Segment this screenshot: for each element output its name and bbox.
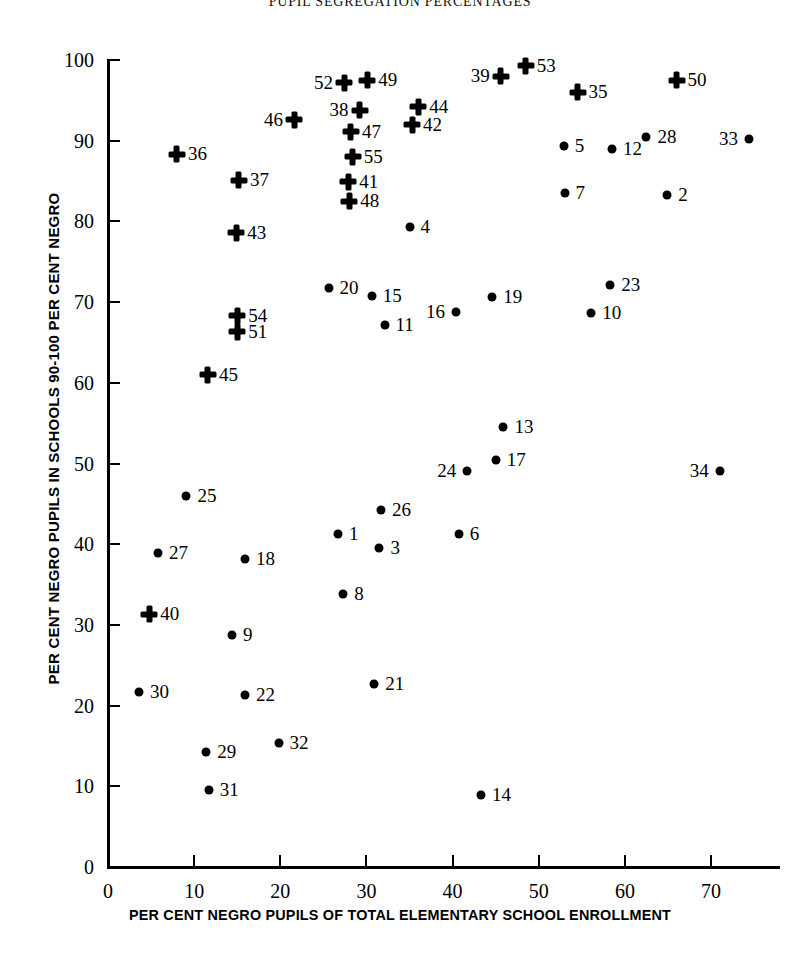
y-tick-label: 50 (34, 454, 94, 474)
data-point-label: 19 (503, 287, 522, 306)
y-tick-mark (107, 140, 120, 142)
y-tick-mark (107, 705, 120, 707)
data-point-label: 26 (392, 500, 411, 519)
data-point-label: 12 (623, 139, 642, 158)
circle-marker-icon (744, 135, 753, 144)
chart-title: PUPIL SEGREGATION PERCENTAGES (0, 0, 800, 7)
data-point-label: 32 (290, 733, 309, 752)
x-tick-label: 40 (423, 881, 483, 901)
data-point-label: 2 (678, 185, 688, 204)
data-point-label: 34 (690, 461, 709, 480)
circle-marker-icon (608, 144, 617, 153)
circle-marker-icon (377, 506, 386, 515)
circle-marker-icon (334, 529, 343, 538)
data-point-label: 44 (429, 97, 448, 116)
x-tick-mark (710, 855, 712, 868)
y-tick-mark (107, 543, 120, 545)
cross-marker-icon (168, 146, 185, 163)
cross-marker-icon (230, 172, 247, 189)
y-tick-mark (107, 785, 120, 787)
x-tick-mark (452, 855, 454, 868)
y-axis-line (107, 60, 110, 869)
data-point-label: 24 (437, 461, 456, 480)
x-tick-label: 20 (250, 881, 310, 901)
data-point-label: 25 (197, 486, 216, 505)
y-tick-label: 100 (34, 50, 94, 70)
circle-marker-icon (339, 590, 348, 599)
data-point-label: 52 (314, 73, 333, 92)
data-point-label: 27 (169, 543, 188, 562)
x-tick-mark (538, 855, 540, 868)
data-point-label: 42 (423, 115, 442, 134)
cross-marker-icon (199, 366, 216, 383)
circle-marker-icon (274, 738, 283, 747)
cross-marker-icon (517, 57, 534, 74)
circle-marker-icon (182, 491, 191, 500)
y-tick-label: 70 (34, 292, 94, 312)
cross-marker-icon (492, 68, 509, 85)
data-point-label: 33 (719, 129, 738, 148)
plot-area: 0102030405060708090100 010203040506070 1… (108, 60, 780, 868)
circle-marker-icon (477, 791, 486, 800)
y-axis-title: PER CENT NEGRO PUPILS IN SCHOOLS 90-100 … (45, 99, 62, 779)
data-point-label: 22 (256, 685, 275, 704)
cross-marker-icon (341, 193, 358, 210)
y-tick-label: 0 (34, 857, 94, 877)
circle-marker-icon (642, 133, 651, 142)
data-point-label: 5 (575, 136, 585, 155)
data-point-label: 54 (248, 306, 267, 325)
circle-marker-icon (488, 293, 497, 302)
cross-marker-icon (229, 307, 246, 324)
cross-marker-icon (569, 84, 586, 101)
circle-marker-icon (228, 631, 237, 640)
data-point-label: 38 (330, 100, 349, 119)
data-point-label: 1 (349, 524, 359, 543)
y-tick-mark (107, 301, 120, 303)
y-tick-mark (107, 59, 120, 61)
circle-marker-icon (499, 423, 508, 432)
data-point-label: 39 (471, 66, 490, 85)
data-point-label: 14 (492, 785, 511, 804)
y-tick-label: 40 (34, 534, 94, 554)
data-point-label: 8 (354, 584, 364, 603)
x-tick-label: 10 (164, 881, 224, 901)
data-point-label: 18 (256, 549, 275, 568)
data-point-label: 46 (264, 110, 283, 129)
circle-marker-icon (452, 307, 461, 316)
circle-marker-icon (454, 529, 463, 538)
data-point-label: 55 (364, 147, 383, 166)
data-point-label: 36 (188, 144, 207, 163)
data-point-label: 50 (688, 70, 707, 89)
data-point-label: 3 (390, 538, 400, 557)
data-point-label: 4 (421, 217, 431, 236)
cross-marker-icon (410, 98, 427, 115)
x-axis-line (107, 866, 780, 869)
y-tick-label: 10 (34, 776, 94, 796)
cross-marker-icon (359, 72, 376, 89)
circle-marker-icon (204, 785, 213, 794)
circle-marker-icon (240, 554, 249, 563)
x-tick-label: 30 (336, 881, 396, 901)
x-tick-mark (193, 855, 195, 868)
data-point-label: 47 (362, 122, 381, 141)
data-point-label: 9 (243, 625, 253, 644)
circle-marker-icon (135, 687, 144, 696)
x-tick-label: 0 (78, 881, 138, 901)
circle-marker-icon (153, 549, 162, 558)
data-point-label: 35 (589, 82, 608, 101)
cross-marker-icon (286, 111, 303, 128)
x-tick-mark (624, 855, 626, 868)
circle-marker-icon (405, 223, 414, 232)
data-point-label: 10 (602, 303, 621, 322)
data-point-label: 37 (250, 170, 269, 189)
data-point-label: 43 (247, 223, 266, 242)
cross-marker-icon (342, 123, 359, 140)
data-point-label: 29 (217, 742, 236, 761)
y-tick-mark (107, 624, 120, 626)
data-point-label: 6 (470, 524, 480, 543)
data-point-label: 20 (340, 278, 359, 297)
y-tick-label: 20 (34, 696, 94, 716)
data-point-label: 13 (514, 417, 533, 436)
y-tick-mark (107, 382, 120, 384)
data-point-label: 40 (160, 604, 179, 623)
